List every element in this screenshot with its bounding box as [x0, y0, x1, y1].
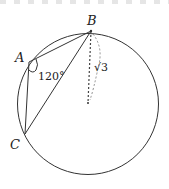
geometry-figure: B A C 120° √3 [0, 0, 169, 189]
point-o-dot [87, 102, 89, 104]
radius-label: √3 [94, 61, 108, 74]
point-b-dot [90, 30, 92, 32]
segment-ac [25, 62, 29, 134]
segment-ab [29, 31, 91, 62]
label-b: B [86, 13, 97, 28]
angle-label: 120° [38, 70, 65, 83]
label-a: A [14, 50, 24, 65]
radius-ob [88, 31, 91, 103]
label-c: C [10, 137, 20, 152]
